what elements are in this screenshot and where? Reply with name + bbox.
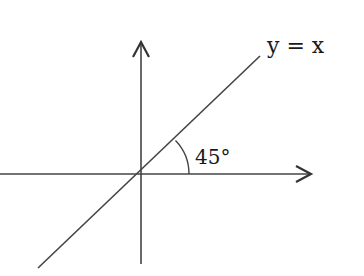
coordinate-diagram: y = x 45°: [0, 0, 364, 276]
angle-arc: [176, 141, 190, 175]
angle-label: 45°: [195, 145, 230, 169]
line-label: y = x: [266, 33, 325, 58]
